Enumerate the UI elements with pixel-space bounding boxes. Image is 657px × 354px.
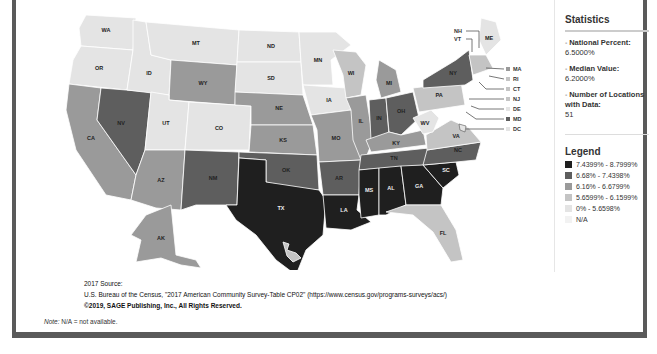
label-IA: IA — [326, 97, 332, 103]
label-IL: IL — [359, 118, 365, 124]
legend-item: 6.68% - 7.4398% — [565, 172, 653, 179]
legend-item: 5.6599% - 6.1599% — [565, 194, 653, 201]
stat-locations-with-data: Number of Locations with Data: 51 — [565, 90, 653, 120]
source-citation: U.S. Bureau of the Census, "2017 America… — [84, 289, 447, 300]
label-MI: MI — [386, 80, 393, 86]
label-ND: ND — [267, 43, 275, 49]
svg-text:DC: DC — [513, 126, 521, 132]
label-TN: TN — [390, 155, 397, 161]
statistics-title: Statistics — [565, 14, 649, 32]
label-SC: SC — [442, 167, 450, 173]
state-AK[interactable] — [131, 205, 201, 268]
stat-median-value: Median Value: 6.2000% — [565, 64, 653, 84]
copyright: ©2019, SAGE Publishing, Inc., All Rights… — [84, 300, 447, 311]
label-MO: MO — [332, 135, 342, 141]
legend-item: 6.16% - 6.6799% — [565, 183, 653, 190]
state-MI[interactable] — [376, 60, 401, 98]
state-NE-small — [469, 55, 493, 75]
label-KS: KS — [279, 137, 287, 143]
stat-national-percent: National Percent: 6.5000% — [565, 38, 653, 58]
legend-swatch — [565, 161, 572, 168]
legend-title: Legend — [565, 146, 653, 157]
legend-swatch — [565, 194, 572, 201]
label-FL: FL — [440, 230, 447, 236]
state-FL[interactable] — [386, 205, 463, 262]
callout-VT: VT — [454, 36, 462, 42]
svg-text:CT: CT — [513, 86, 521, 92]
label-NE: NE — [275, 105, 283, 111]
label-WY: WY — [199, 80, 208, 86]
state-NY[interactable] — [423, 50, 473, 88]
legend-swatch — [565, 183, 572, 190]
label-SD: SD — [267, 75, 275, 81]
note: Note: N/A = not available. — [44, 318, 118, 325]
svg-text:MA: MA — [513, 66, 522, 72]
label-ID: ID — [146, 70, 152, 76]
label-NV: NV — [117, 120, 125, 126]
label-OH: OH — [397, 108, 405, 114]
svg-text:RI: RI — [513, 76, 519, 82]
legend-item: N/A — [565, 216, 653, 223]
figure-frame: WA OR CA NV ID MT WY UT CO AZ NM ND SD N… — [12, 0, 647, 338]
label-NC: NC — [454, 147, 462, 153]
label-MN: MN — [314, 57, 323, 63]
legend-item: 0% - 5.6598% — [565, 205, 653, 212]
label-TX: TX — [277, 205, 284, 211]
label-AZ: AZ — [157, 177, 165, 183]
callout-NH: NH — [454, 28, 462, 34]
legend-swatch — [565, 216, 572, 223]
source-year: 2017 Source: — [84, 278, 447, 289]
label-ME: ME — [485, 35, 494, 41]
label-NM: NM — [209, 175, 218, 181]
label-UT: UT — [162, 120, 170, 126]
sidebar: Statistics National Percent: 6.5000% Med… — [554, 0, 653, 272]
legend-swatch — [565, 205, 572, 212]
label-AL: AL — [387, 185, 395, 191]
label-GA: GA — [415, 183, 423, 189]
label-MT: MT — [192, 40, 201, 46]
svg-text:DE: DE — [513, 106, 521, 112]
source-block: 2017 Source: U.S. Bureau of the Census, … — [84, 278, 447, 311]
label-VA: VA — [452, 133, 459, 139]
label-CO: CO — [215, 125, 224, 131]
label-CA: CA — [87, 135, 95, 141]
label-HI: HI — [276, 250, 282, 256]
label-WV: WV — [421, 120, 430, 126]
label-MS: MS — [365, 187, 374, 193]
label-WA: WA — [102, 27, 111, 33]
label-OK: OK — [282, 167, 290, 173]
label-KY: KY — [392, 140, 400, 146]
label-LA: LA — [340, 207, 347, 213]
label-PA: PA — [435, 92, 442, 98]
divider — [565, 134, 649, 135]
label-OR: OR — [95, 65, 103, 71]
svg-text:MD: MD — [513, 116, 522, 122]
state-MS[interactable] — [359, 168, 379, 218]
label-AR: AR — [335, 175, 343, 181]
label-NY: NY — [449, 70, 457, 76]
label-AK: AK — [157, 235, 165, 241]
map-svg: WA OR CA NV ID MT WY UT CO AZ NM ND SD N… — [61, 0, 551, 270]
svg-text:NJ: NJ — [513, 96, 520, 102]
us-choropleth-map: WA OR CA NV ID MT WY UT CO AZ NM ND SD N… — [61, 0, 551, 270]
legend-swatch — [565, 172, 572, 179]
label-IN: IN — [376, 115, 382, 121]
label-WI: WI — [348, 70, 355, 76]
legend-item: 7.4399% - 8.7999% — [565, 161, 653, 168]
